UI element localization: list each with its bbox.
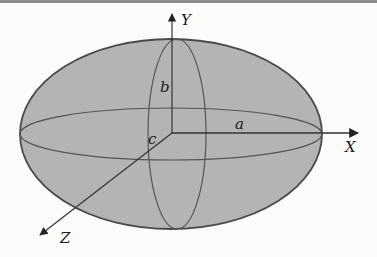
semi-axis-c-label: c (148, 132, 156, 147)
semi-axis-a-label: a (235, 117, 244, 132)
semi-axis-b-label: b (160, 80, 170, 95)
ellipsoid-diagram (0, 0, 377, 257)
y-axis-label: Y (181, 13, 191, 28)
z-axis-label: Z (60, 231, 70, 246)
x-axis-label: X (345, 140, 356, 155)
diagram-canvas: Y X Z a b c (0, 0, 377, 257)
